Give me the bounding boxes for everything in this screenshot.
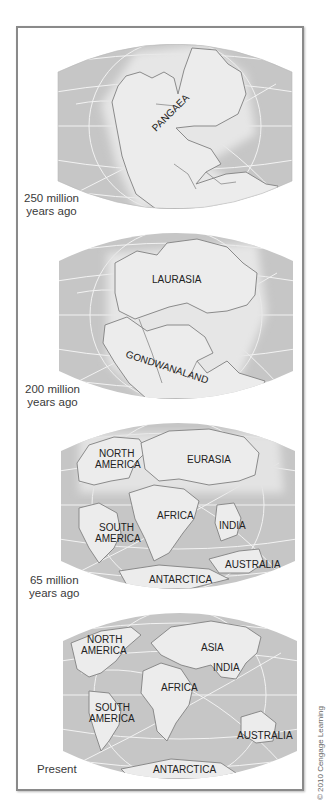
label-eurasia: EURASIA xyxy=(187,454,231,465)
label-south: SOUTH xyxy=(99,522,134,533)
era-label-200: 200 million years ago xyxy=(25,383,80,409)
era-label-65: 65 million years ago xyxy=(29,574,80,600)
label-antarctica: ANTARCTICA xyxy=(153,764,216,775)
label-australia: AUSTRALIA xyxy=(237,730,293,741)
label-america: AMERICA xyxy=(81,645,127,656)
label-asia: ASIA xyxy=(201,642,224,653)
label-laurasia: LAURASIA xyxy=(152,274,202,285)
map-present: NORTH AMERICA ASIA INDIA AFRICA SOUTH AM… xyxy=(61,613,299,779)
label-india: INDIA xyxy=(219,520,246,531)
label-antarctica: ANTARCTICA xyxy=(149,574,212,585)
label-australia: AUSTRALIA xyxy=(225,559,281,570)
era-label-present: Present xyxy=(37,763,77,776)
label-north: NORTH xyxy=(87,634,122,645)
label-africa: AFRICA xyxy=(157,510,194,521)
map-250-million-years-ago: PANGAEA xyxy=(56,44,294,209)
label-north: NORTH xyxy=(99,448,134,459)
label-america: AMERICA xyxy=(95,459,141,470)
label-america-south: AMERICA xyxy=(95,533,141,544)
map-65-million-years-ago: NORTH AMERICA EURASIA AFRICA SOUTH AMERI… xyxy=(59,423,297,589)
copyright-credit: © 2010 Cengage Learning xyxy=(316,706,325,800)
label-america-south: AMERICA xyxy=(89,713,135,724)
label-india: INDIA xyxy=(213,662,240,673)
label-south: SOUTH xyxy=(95,702,130,713)
label-africa: AFRICA xyxy=(161,682,198,693)
map-200-million-years-ago: LAURASIA GONDWANALAND xyxy=(57,233,295,399)
era-label-250: 250 million years ago xyxy=(24,192,79,218)
